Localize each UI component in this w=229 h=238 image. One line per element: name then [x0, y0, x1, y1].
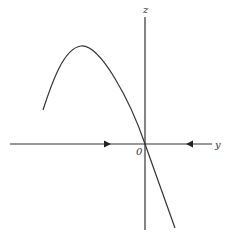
arrow-left-icon [186, 141, 193, 148]
y-axis-label: y [214, 139, 221, 150]
phase-diagram: z y 0 [0, 0, 229, 238]
origin-label: 0 [136, 146, 143, 157]
arrow-right-icon [104, 141, 111, 148]
z-axis-label: z [142, 4, 149, 15]
trajectory-curve [43, 46, 175, 228]
